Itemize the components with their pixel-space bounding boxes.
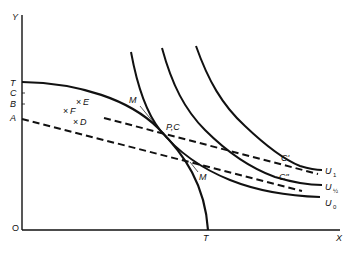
svg-text:1: 1 (333, 172, 337, 178)
svg-text:0: 0 (333, 204, 337, 210)
svg-text:U: U (325, 182, 332, 192)
point-e: × E (76, 97, 90, 107)
svg-text:U: U (325, 198, 332, 208)
x-axis-label: X (335, 233, 343, 243)
label-u0: U 0 (325, 198, 337, 210)
indifference-curve-u1 (196, 46, 322, 170)
indifference-curve-u0 (131, 52, 320, 197)
label-u-half: U ½ (325, 182, 338, 194)
y-mark-t: T (10, 78, 17, 88)
svg-text:U: U (325, 166, 332, 176)
svg-text:×: × (73, 117, 78, 127)
y-axis-label: Y (12, 12, 19, 22)
svg-text:×: × (76, 97, 81, 107)
diagram-svg: Y X O T C B A T M M P,C C' C" U 1 U ½ U … (0, 0, 356, 256)
price-line-upper (104, 118, 318, 174)
x-mark-t: T (203, 233, 210, 243)
point-f: × F (63, 106, 76, 116)
price-line-lower (22, 119, 302, 191)
svg-text:D: D (80, 117, 87, 127)
svg-text:F: F (70, 106, 76, 116)
svg-text:½: ½ (333, 188, 338, 194)
label-m-lower: M (199, 172, 207, 182)
y-mark-a: A (9, 113, 16, 123)
origin-label: O (12, 223, 19, 233)
label-tangency-pc: P,C (166, 122, 180, 132)
label-m-upper: M (129, 95, 137, 105)
point-d: × D (73, 117, 87, 127)
y-mark-c: C (10, 88, 17, 98)
label-u1: U 1 (325, 166, 337, 178)
production-frontier-curve (22, 82, 208, 230)
svg-text:×: × (63, 106, 68, 116)
label-c-prime: C' (281, 153, 289, 163)
svg-text:E: E (83, 97, 90, 107)
label-c-double-prime: C" (279, 172, 289, 182)
diagram-canvas: Y X O T C B A T M M P,C C' C" U 1 U ½ U … (0, 0, 356, 256)
y-mark-b: B (10, 99, 16, 109)
